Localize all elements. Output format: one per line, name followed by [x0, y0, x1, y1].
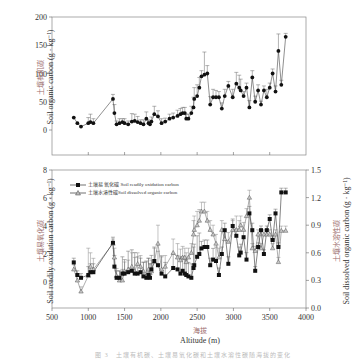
- x-tick-label: 1500: [117, 313, 133, 322]
- figure-caption: 图 3 土壤有机碳、土壤易氧化碳和土壤水溶性碳随海拔的变化: [48, 350, 338, 359]
- roc-point: [152, 259, 156, 263]
- doc-point: [75, 278, 79, 282]
- soc-point: [183, 111, 187, 115]
- soc-point: [195, 94, 199, 98]
- legend: 土壤易 氧化碳 Soil readily oxidation carbon 土壤…: [70, 181, 179, 197]
- roc-line: [74, 192, 286, 277]
- roc-point: [189, 276, 193, 280]
- doc-point: [283, 228, 287, 232]
- soc-point: [189, 111, 193, 115]
- x-tick-label: 3500: [262, 313, 278, 322]
- right-y-tick-label: 0.9: [311, 221, 321, 230]
- roc-point: [262, 252, 266, 256]
- roc-point: [231, 224, 235, 228]
- bottom-left-y-label-cn: 土壤易氧化碳: [37, 151, 46, 331]
- roc-point: [268, 217, 272, 221]
- square-marker-icon: [70, 182, 86, 188]
- roc-point: [148, 276, 152, 280]
- legend-label-dissolved-organic: 土壤水溶性碳Soil dissolved organic carbon: [88, 189, 177, 197]
- roc-point: [265, 228, 269, 232]
- doc-point: [163, 264, 167, 268]
- soc-point: [271, 72, 275, 76]
- x-tick-label: 2500: [189, 313, 205, 322]
- soc-point: [250, 76, 254, 80]
- right-y-tick-label: 0.3: [311, 276, 321, 285]
- soc-point: [245, 86, 249, 90]
- bottom-right-y-label-cn: 土壤水溶性碳: [333, 151, 342, 331]
- soc-point: [192, 97, 196, 101]
- x-tick-label: 3000: [225, 313, 241, 322]
- roc-point: [208, 263, 212, 267]
- roc-point: [91, 270, 95, 274]
- doc-point: [279, 228, 283, 232]
- x-tick-label: 1000: [80, 313, 96, 322]
- x-tick-label: 2000: [153, 313, 169, 322]
- soc-point: [226, 84, 230, 88]
- bottom-left-y-axis-label: 土壤易氧化碳 Soil readily oxidation carbon (g …: [37, 151, 55, 331]
- soc-point: [113, 111, 117, 115]
- right-y-tick-label: 1.5: [311, 166, 321, 175]
- doc-point: [135, 262, 139, 266]
- roc-point: [220, 252, 224, 256]
- roc-point: [112, 265, 116, 269]
- soc-point: [253, 100, 257, 104]
- doc-point: [112, 255, 116, 259]
- roc-point: [160, 272, 164, 276]
- soc-point: [144, 117, 148, 121]
- doc-point: [214, 241, 218, 245]
- x-axis-title-en: Altitude (m): [160, 336, 240, 345]
- doc-point: [171, 251, 175, 255]
- doc-point: [223, 237, 227, 241]
- soc-point: [234, 82, 238, 86]
- roc-point: [244, 258, 248, 262]
- roc-point: [242, 235, 246, 239]
- top-y-axis-label: 土壤有机碳 Soil organic carbon (g · kg⁻¹): [37, 7, 55, 147]
- roc-point: [72, 260, 76, 264]
- doc-point: [208, 228, 212, 232]
- soc-point: [262, 89, 266, 93]
- doc-point: [156, 241, 160, 245]
- soc-point: [242, 94, 246, 98]
- bottom-left-y-label-en: Soil readily oxidation carbon (g · kg⁻¹): [46, 151, 55, 331]
- soc-point: [197, 86, 201, 90]
- doc-point: [205, 218, 209, 222]
- doc-point: [276, 260, 280, 264]
- soc-point: [277, 49, 281, 53]
- soc-point: [268, 86, 272, 90]
- soc-point: [205, 72, 209, 76]
- doc-point: [192, 228, 196, 232]
- right-y-tick-label: 0.0: [311, 304, 321, 313]
- doc-point: [79, 289, 83, 293]
- roc-point: [111, 241, 115, 245]
- soc-point: [247, 106, 251, 110]
- roc-point: [149, 267, 153, 271]
- roc-point: [223, 228, 227, 232]
- roc-point: [284, 190, 288, 194]
- doc-point: [197, 218, 201, 222]
- roc-point: [274, 211, 278, 215]
- roc-point: [226, 262, 230, 266]
- roc-point: [197, 252, 201, 256]
- soc-point: [284, 35, 288, 39]
- roc-point: [276, 245, 280, 249]
- x-tick-label: 4000: [298, 313, 314, 322]
- roc-point: [163, 274, 167, 278]
- roc-point: [259, 228, 263, 232]
- soc-point: [163, 120, 167, 124]
- roc-point: [171, 266, 175, 270]
- roc-point: [176, 267, 180, 271]
- doc-point: [189, 251, 193, 255]
- soc-point: [150, 120, 154, 124]
- doc-point: [211, 232, 215, 236]
- soc-point: [279, 83, 283, 87]
- roc-point: [117, 276, 121, 280]
- roc-point: [239, 251, 243, 255]
- soc-point: [123, 121, 127, 125]
- roc-point: [234, 234, 238, 238]
- legend-item-dissolved-organic: 土壤水溶性碳Soil dissolved organic carbon: [70, 189, 179, 197]
- doc-point: [247, 195, 251, 199]
- roc-point: [156, 263, 160, 267]
- roc-point: [247, 211, 251, 215]
- roc-point: [192, 263, 196, 267]
- soc-point: [220, 107, 224, 111]
